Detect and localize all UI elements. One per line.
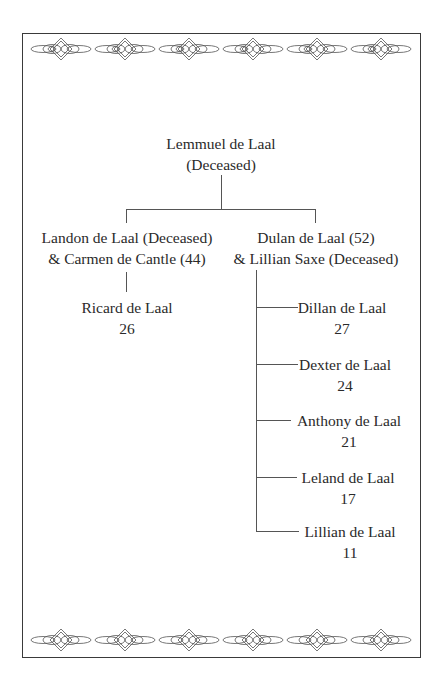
- child-node-leland: Leland de Laal 17: [302, 467, 395, 509]
- child-age: 17: [302, 488, 395, 509]
- child-branch-connector: [256, 531, 299, 532]
- root-node: Lemmuel de Laal (Deceased): [166, 133, 275, 175]
- child-branch-connector: [256, 420, 291, 421]
- right-children-vertical-connector: [256, 270, 257, 532]
- child-branch-connector: [256, 364, 298, 365]
- left-branch-drop: [126, 209, 127, 223]
- child-age: 21: [297, 431, 401, 452]
- child-name: Ricard de Laal: [81, 297, 172, 318]
- child-name: Dillan de Laal: [298, 297, 387, 318]
- chain-diamond-ornament-icon: [30, 37, 415, 61]
- child-branch-connector: [256, 307, 298, 308]
- bottom-ornament-border: [30, 628, 415, 652]
- branch-node-dulan: Dulan de Laal (52) & Lillian Saxe (Decea…: [234, 227, 399, 269]
- branch-line1: Dulan de Laal (52): [234, 227, 399, 248]
- chain-diamond-ornament-icon: [30, 628, 415, 652]
- child-name: Lillian de Laal: [304, 521, 395, 542]
- top-ornament-border: [30, 37, 415, 61]
- child-age: 24: [299, 375, 391, 396]
- child-node-anthony: Anthony de Laal 21: [297, 410, 401, 452]
- root-status: (Deceased): [166, 154, 275, 175]
- right-branch-drop: [315, 209, 316, 223]
- root-vertical-connector: [221, 175, 222, 210]
- page-frame: [22, 33, 421, 658]
- child-age: 26: [81, 318, 172, 339]
- root-name: Lemmuel de Laal: [166, 133, 275, 154]
- child-age: 27: [298, 318, 387, 339]
- child-name: Dexter de Laal: [299, 354, 391, 375]
- child-name: Leland de Laal: [302, 467, 395, 488]
- child-node-dexter: Dexter de Laal 24: [299, 354, 391, 396]
- branch-line1: Landon de Laal (Deceased): [42, 227, 213, 248]
- child-branch-connector: [256, 477, 297, 478]
- branch-line2: & Lillian Saxe (Deceased): [234, 248, 399, 269]
- child-age: 11: [304, 542, 395, 563]
- left-child-connector: [126, 272, 127, 292]
- branch-node-landon: Landon de Laal (Deceased) & Carmen de Ca…: [42, 227, 213, 269]
- child-node-ricard: Ricard de Laal 26: [81, 297, 172, 339]
- child-name: Anthony de Laal: [297, 410, 401, 431]
- sibling-horizontal-connector: [126, 209, 316, 210]
- child-node-lillian: Lillian de Laal 11: [304, 521, 395, 563]
- branch-line2: & Carmen de Cantle (44): [42, 248, 213, 269]
- child-node-dillan: Dillan de Laal 27: [298, 297, 387, 339]
